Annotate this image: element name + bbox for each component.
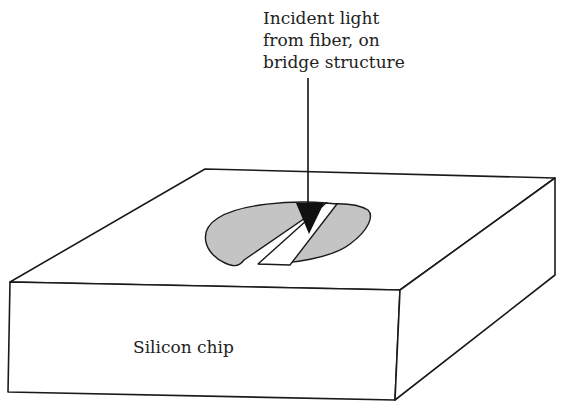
silicon-chip-label: Silicon chip bbox=[133, 337, 234, 357]
incident-light-annotation: Incident light from fiber, on bridge str… bbox=[263, 7, 405, 73]
diagram-canvas: Incident light from fiber, on bridge str… bbox=[0, 0, 566, 414]
